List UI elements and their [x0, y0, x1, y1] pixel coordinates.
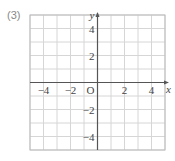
y-tick-label: −2 — [83, 104, 95, 116]
x-tick-label: −4 — [38, 84, 50, 96]
x-tick-label: −2 — [65, 84, 77, 96]
y-tick-label: −4 — [83, 131, 95, 143]
origin-label: O — [87, 84, 95, 96]
y-tick-label: 4 — [89, 23, 95, 35]
x-tick-label: 2 — [122, 84, 128, 96]
coordinate-grid: xyO−4−22442−2−4 — [0, 0, 175, 161]
x-axis-label: x — [165, 83, 171, 95]
y-axis-label: y — [89, 9, 95, 21]
x-tick-label: 4 — [149, 84, 155, 96]
y-tick-label: 2 — [89, 50, 95, 62]
